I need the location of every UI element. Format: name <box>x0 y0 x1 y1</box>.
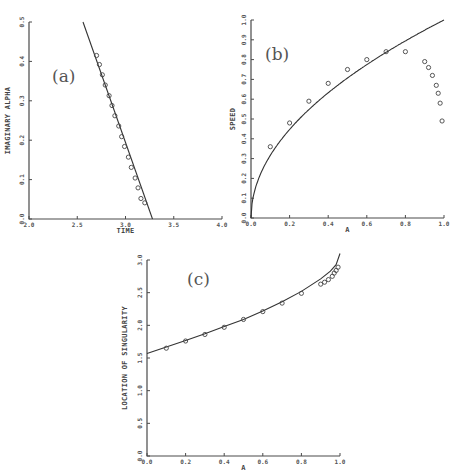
data-point <box>436 91 440 95</box>
y-tick-label: 0.5 <box>18 16 25 27</box>
x-tick-label: 2.0 <box>24 221 35 228</box>
y-tick-label: 3.0 <box>136 254 143 265</box>
y-tick-label: 1.0 <box>136 385 143 396</box>
x-tick-label: 0.6 <box>361 220 372 227</box>
y-tick-label: 0.4 <box>240 133 247 144</box>
y-tick-label: 2.0 <box>136 320 143 331</box>
axes <box>147 260 340 456</box>
x-tick-label: 0.8 <box>296 458 307 465</box>
y-axis-label: IMAGINARY ALPHA <box>4 86 12 154</box>
x-axis-label: A <box>241 464 246 472</box>
data-point <box>345 67 349 71</box>
chart-panel-a: 2.02.53.03.54.00.00.10.20.30.40.5TIMEIMA… <box>4 16 228 235</box>
y-tick-label: 0.0 <box>18 213 25 224</box>
data-point <box>438 101 442 105</box>
chart-panel-c: 0.00.20.40.60.81.00.00.51.01.52.02.53.0A… <box>121 254 346 473</box>
data-point <box>126 155 130 159</box>
x-tick-label: 0.2 <box>180 458 191 465</box>
y-tick-label: 0.5 <box>240 113 247 124</box>
data-point <box>133 176 137 180</box>
data-point <box>268 145 272 149</box>
data-point <box>139 196 143 200</box>
y-axis-label: SPEED <box>229 108 237 131</box>
y-tick-label: 0.7 <box>240 74 247 85</box>
data-point <box>136 186 140 190</box>
data-point <box>430 73 434 77</box>
data-point <box>129 165 133 169</box>
y-tick-label: 0.0 <box>240 212 247 223</box>
data-point <box>326 278 330 282</box>
x-tick-label: 1.0 <box>439 220 450 227</box>
x-tick-label: 0.2 <box>284 220 295 227</box>
y-tick-label: 0.0 <box>136 450 143 461</box>
y-axis-label: LOCATION OF SINGULARITY <box>121 306 129 410</box>
x-tick-label: 0.4 <box>219 458 230 465</box>
y-tick-label: 0.2 <box>18 134 25 145</box>
data-point <box>365 58 369 62</box>
x-axis-label: A <box>345 226 350 234</box>
data-point <box>322 280 326 284</box>
axes <box>29 22 222 219</box>
y-tick-label: 0.8 <box>240 54 247 65</box>
data-point <box>122 144 126 148</box>
data-point <box>440 119 444 123</box>
x-tick-label: 0.0 <box>142 458 153 465</box>
y-tick-label: 0.2 <box>240 173 247 184</box>
panel-label: (c) <box>187 269 210 289</box>
y-tick-label: 2.5 <box>136 287 143 298</box>
data-point <box>434 83 438 87</box>
data-point <box>403 50 407 54</box>
data-point <box>307 99 311 103</box>
data-point <box>288 121 292 125</box>
y-tick-label: 0.9 <box>240 34 247 45</box>
data-point <box>326 81 330 85</box>
y-tick-label: 1.0 <box>240 14 247 25</box>
x-tick-label: 0.6 <box>257 458 268 465</box>
figure-canvas: 2.02.53.03.54.00.00.10.20.30.40.5TIMEIMA… <box>0 0 465 476</box>
data-point <box>426 65 430 69</box>
data-point <box>423 59 427 63</box>
x-tick-label: 3.5 <box>168 221 179 228</box>
y-tick-label: 0.4 <box>18 56 25 67</box>
panel-label: (a) <box>52 66 75 86</box>
x-axis-label: TIME <box>116 227 134 235</box>
y-tick-label: 0.1 <box>18 174 25 185</box>
y-tick-label: 0.5 <box>136 418 143 429</box>
x-tick-label: 1.0 <box>335 458 346 465</box>
theory-curve <box>147 254 340 354</box>
x-tick-label: 0.4 <box>323 220 334 227</box>
y-tick-label: 0.3 <box>240 153 247 164</box>
y-tick-label: 0.3 <box>18 95 25 106</box>
x-tick-label: 2.5 <box>72 221 83 228</box>
chart-panel-b: 0.00.20.40.60.81.00.00.10.20.30.40.50.60… <box>229 14 450 234</box>
y-tick-label: 0.1 <box>240 192 247 203</box>
x-tick-label: 0.0 <box>246 220 257 227</box>
theory-curve <box>83 22 153 219</box>
data-point <box>336 265 340 269</box>
x-tick-label: 0.8 <box>400 220 411 227</box>
panel-label: (b) <box>265 44 289 64</box>
y-tick-label: 1.5 <box>136 352 143 363</box>
x-tick-label: 4.0 <box>217 221 228 228</box>
y-tick-label: 0.6 <box>240 93 247 104</box>
